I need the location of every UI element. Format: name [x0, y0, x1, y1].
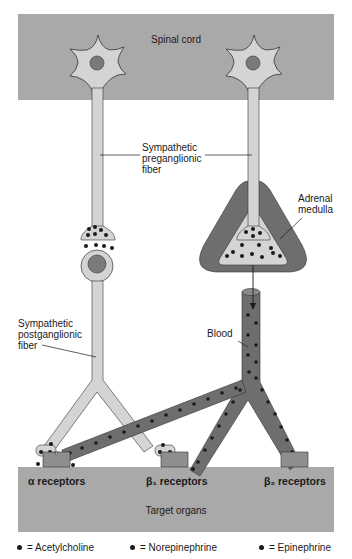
- legend-epinephrine: = Epinephrine: [259, 542, 331, 553]
- right-preganglionic-axon: [248, 88, 259, 228]
- epinephrine-dot-icon: [259, 545, 264, 550]
- postganglionic-label: Sympathetic postganglionic fiber: [18, 318, 82, 351]
- sympathetic-nervous-system-diagram: Spinal cord Sympathetic preganglionic fi…: [0, 0, 352, 559]
- left-preganglionic-terminal: [81, 226, 115, 240]
- alpha-receptors-label: α receptors: [28, 476, 85, 487]
- legend-acetylcholine: = Acetylcholine: [17, 542, 94, 553]
- preganglionic-label-line2: preganglionic: [142, 153, 202, 164]
- adrenal-label-line2: medulla: [298, 204, 333, 215]
- postganglionic-label-line1: Sympathetic: [18, 318, 82, 329]
- spinal-cord-label: Spinal cord: [0, 34, 352, 45]
- adrenal-label-line1: Adrenal: [298, 193, 333, 204]
- preganglionic-label-line1: Sympathetic: [142, 142, 202, 153]
- acetylcholine-dot-icon: [17, 545, 22, 550]
- adrenal-medulla-label: Adrenal medulla: [298, 193, 333, 215]
- legend-acetylcholine-label: = Acetylcholine: [27, 542, 94, 553]
- beta2-receptors-label: β₂ receptors: [264, 476, 326, 487]
- postganglionic-label-line2: postganglionic: [18, 329, 82, 340]
- legend-epinephrine-label: = Epinephrine: [269, 542, 331, 553]
- preganglionic-label-line3: fiber: [142, 164, 202, 175]
- preganglionic-label: Sympathetic preganglionic fiber: [142, 142, 202, 175]
- target-organs-label: Target organs: [0, 505, 352, 516]
- legend-norepinephrine: = Norepinephrine: [130, 542, 217, 553]
- postganglionic-cell-body: [81, 250, 113, 282]
- blood-label: Blood: [207, 328, 233, 339]
- legend-norepinephrine-label: = Norepinephrine: [140, 542, 217, 553]
- spinal-cord-region: [18, 14, 334, 100]
- left-preganglionic-axon: [92, 88, 103, 228]
- beta1-receptors-label: β₁ receptors: [146, 476, 208, 487]
- postganglionic-label-line3: fiber: [18, 340, 82, 351]
- norepinephrine-dot-icon: [130, 545, 135, 550]
